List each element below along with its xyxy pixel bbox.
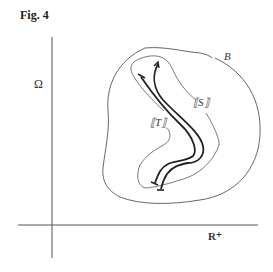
region-b-label: B [224, 50, 231, 62]
region-s-label: ⟦S⟧ [193, 96, 209, 109]
y-axis-label: Ω [34, 77, 43, 92]
x-axis-label: R⁺ [208, 230, 222, 243]
region-s-boundary [131, 56, 219, 188]
trajectory-line-left [141, 77, 195, 183]
diagram-canvas [0, 0, 273, 272]
trajectory-t-label: ⟦T⟧ [150, 116, 166, 129]
